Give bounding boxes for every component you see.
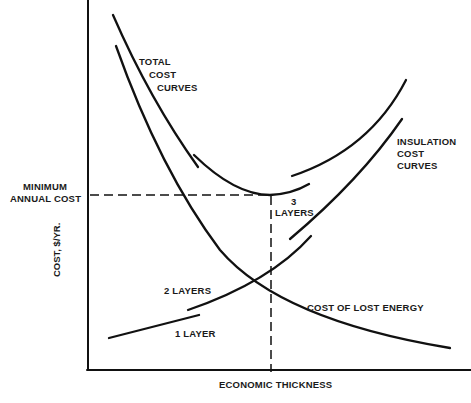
- label-total-curves: CURVES: [157, 82, 198, 94]
- total-cost-curve-3: [292, 80, 406, 176]
- label-lost-energy: COST OF LOST ENERGY: [307, 302, 424, 314]
- insulation-2-layers-curve: [188, 236, 311, 310]
- label-layers: LAYERS: [275, 207, 314, 219]
- label-one-layer: 1 LAYER: [175, 328, 216, 340]
- label-annual-cost: ANNUAL COST: [10, 193, 81, 205]
- label-two-layers: 2 LAYERS: [164, 285, 211, 297]
- label-insulation-curves: CURVES: [397, 160, 438, 172]
- label-minimum: MINIMUM: [23, 181, 67, 193]
- y-axis-label: COST, $/YR.: [51, 223, 62, 277]
- insulation-3-layers-curve: [290, 119, 402, 239]
- x-axis-label: ECONOMIC THICKNESS: [219, 379, 332, 391]
- label-insulation-cost: COST: [397, 148, 424, 160]
- label-total-cost: COST: [149, 69, 176, 81]
- label-total: TOTAL: [139, 56, 171, 68]
- label-insulation: INSULATION: [397, 136, 456, 148]
